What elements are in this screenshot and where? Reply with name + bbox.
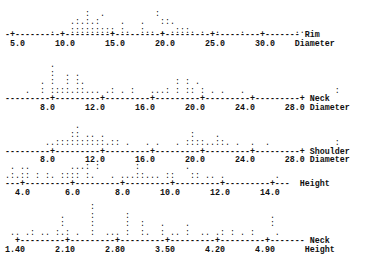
dotplot-neck-diameter: . : . . . : : :. : : . . : ::::.::... .:… xyxy=(0,61,366,113)
tick-labels: 1.40 2.10 2.80 3.50 4.20 4.90 Height xyxy=(0,246,366,255)
tick-labels: 4.0 6.0 8.0 10.0 12.0 14.0 xyxy=(0,189,366,198)
dotplot-neck-height: : . : : . : : : : . . : .. .: .. :.: . :… xyxy=(0,203,366,255)
tick-labels: 5.0 10.0 15.0 20.0 25.0 30.0 Diameter xyxy=(0,40,366,49)
dotplot-rim-diameter: : . : .:.:.: . . ::. . ::::::::: :. :.. … xyxy=(0,1,366,49)
dotplot-height: . .. ...: : : . .:.:: : :. :::: :. . ...… xyxy=(0,163,366,197)
tick-labels: 8.0 12.0 16.0 20.0 24.0 28.0 Diameter xyxy=(0,104,366,113)
dotplot-shoulder-diameter: . :: .. . : . ..::::::::::.:: . . . . ::… xyxy=(0,122,366,165)
